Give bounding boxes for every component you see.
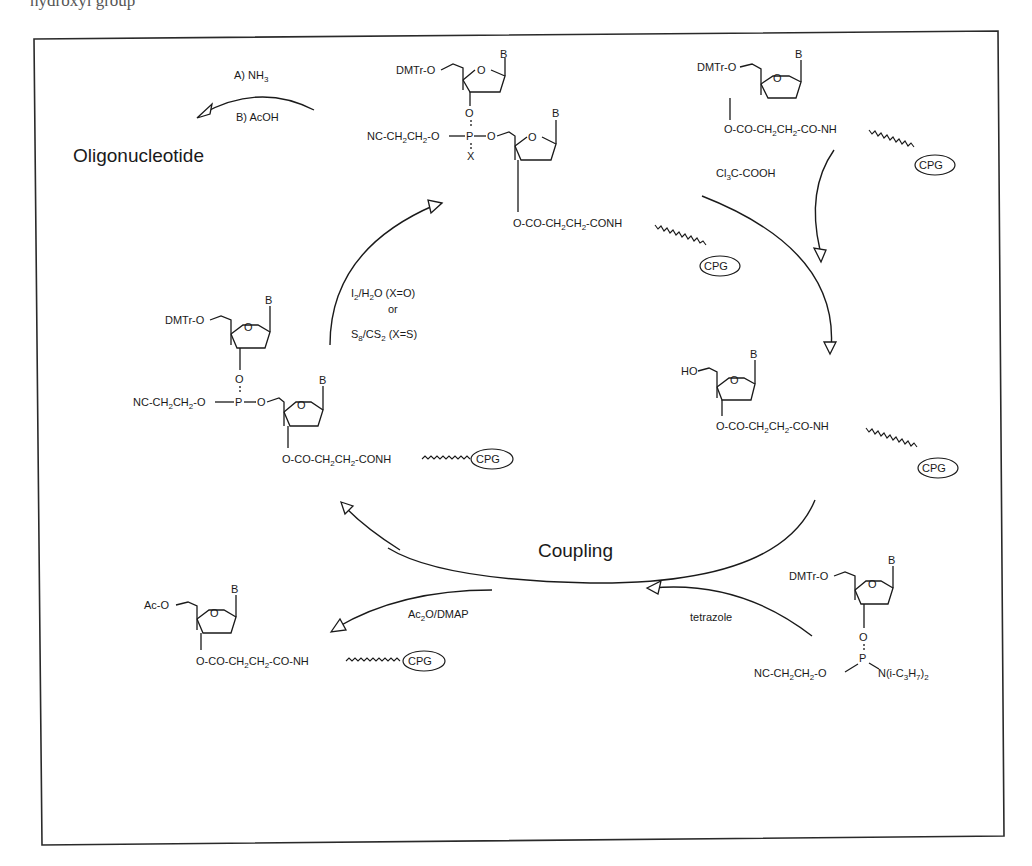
- svg-text:O: O: [773, 72, 782, 84]
- svg-text:O-CO-CH2CH2-CO-NH: O-CO-CH2CH2-CO-NH: [716, 420, 829, 435]
- svg-text:or: or: [388, 303, 398, 315]
- svg-text:CPG: CPG: [408, 655, 432, 667]
- phosphorus: P: [235, 396, 242, 408]
- svg-text:X: X: [467, 150, 475, 162]
- svg-text:O: O: [210, 607, 219, 619]
- synthesis-cycle-figure: hydroxyl group A) NH3 B) AcOH Oligonucle…: [0, 0, 1032, 866]
- deprotection-step: A) NH3 B) AcOH Oligonucleotide: [73, 69, 314, 166]
- activation-step: tetrazole: [647, 581, 812, 636]
- oxidation-arrow: [330, 205, 435, 345]
- coupling-step: Coupling: [388, 500, 815, 583]
- svg-text:O: O: [868, 578, 877, 590]
- diagram-canvas: hydroxyl group A) NH3 B) AcOH Oligonucle…: [0, 0, 1032, 866]
- svg-text:NC-CH2CH2-O: NC-CH2CH2-O: [133, 396, 206, 411]
- detritylation-step: Cl3C-COOH: [716, 150, 834, 262]
- structure-detritylated-nucleoside: HO O B O-CO-CH2CH2-CO-NH CPG: [681, 348, 958, 478]
- svg-text:DMTr-O: DMTr-O: [697, 61, 737, 73]
- phosphorus: P: [859, 652, 866, 664]
- phosphorus: P: [466, 130, 473, 142]
- svg-text:B: B: [265, 294, 272, 306]
- oxidation-step: I2/H2O (X=O) or S8/CS2 (X=S): [330, 200, 442, 345]
- structure-dinucleotide-oxidized: DMTr-O O B O NC-CH2CH2-O P O X O B O-CO-…: [367, 48, 740, 276]
- arrowhead-icon: [428, 200, 442, 213]
- coupling-label: Coupling: [538, 540, 613, 561]
- arrowhead-icon: [331, 619, 346, 632]
- svg-text:B: B: [888, 554, 895, 566]
- svg-text:tetrazole: tetrazole: [690, 611, 732, 623]
- product-oligonucleotide: Oligonucleotide: [73, 145, 204, 166]
- svg-text:Ac2O/DMAP: Ac2O/DMAP: [408, 608, 469, 623]
- svg-text:B: B: [552, 107, 559, 119]
- arrowhead-icon: [197, 104, 212, 118]
- svg-text:O: O: [297, 399, 306, 411]
- svg-text:N(i-C3H7)2: N(i-C3H7)2: [878, 667, 929, 682]
- svg-text:O-CO-CH2CH2-CO-NH: O-CO-CH2CH2-CO-NH: [196, 655, 309, 670]
- svg-text:Cl3C-COOH: Cl3C-COOH: [716, 167, 776, 182]
- svg-text:O: O: [465, 107, 474, 119]
- svg-text:NC-CH2CH2-O: NC-CH2CH2-O: [754, 667, 827, 682]
- reagent-acoh: B) AcOH: [236, 111, 279, 123]
- caption-fragment: hydroxyl group: [30, 0, 135, 10]
- structure-capped-nucleoside: Ac-O O B O-CO-CH2CH2-CO-NH CPG: [144, 583, 445, 671]
- svg-text:O-CO-CH2CH2-CO-NH: O-CO-CH2CH2-CO-NH: [724, 123, 837, 138]
- arrowhead-icon: [814, 248, 826, 262]
- svg-text:DMTr-O: DMTr-O: [165, 314, 205, 326]
- svg-text:CPG: CPG: [922, 462, 946, 474]
- svg-text:A) NH3: A) NH3: [234, 69, 269, 84]
- svg-text:B: B: [795, 48, 802, 60]
- svg-text:O: O: [257, 396, 266, 408]
- detritylation-arrow: [815, 150, 834, 250]
- svg-text:O-CO-CH2CH2-CONH: O-CO-CH2CH2-CONH: [513, 217, 622, 232]
- svg-text:B: B: [319, 374, 326, 386]
- svg-text:O: O: [244, 321, 253, 333]
- arrowhead-icon: [647, 581, 661, 594]
- svg-text:O: O: [487, 130, 496, 142]
- svg-text:CPG: CPG: [476, 453, 500, 465]
- linker-wavy-bond: [655, 225, 706, 245]
- svg-text:O: O: [477, 64, 486, 76]
- svg-text:DMTr-O: DMTr-O: [396, 64, 436, 76]
- svg-text:B: B: [750, 348, 757, 360]
- svg-text:O: O: [730, 374, 739, 386]
- svg-text:O-CO-CH2CH2-CONH: O-CO-CH2CH2-CONH: [282, 453, 391, 468]
- svg-text:O: O: [528, 131, 537, 143]
- svg-text:HO: HO: [681, 365, 698, 377]
- structure-start-nucleoside: DMTr-O O B O-CO-CH2CH2-CO-NH CPG: [697, 48, 955, 175]
- svg-text:I2/H2O (X=O): I2/H2O (X=O): [351, 287, 415, 302]
- svg-text:O: O: [235, 373, 244, 385]
- svg-text:NC-CH2CH2-O: NC-CH2CH2-O: [367, 130, 440, 145]
- svg-text:S8/CS2 (X=S): S8/CS2 (X=S): [351, 328, 417, 343]
- structure-phosphoramidite: DMTr-O O B O P NC-CH2CH2-O N(i-C3H7)2: [754, 554, 929, 682]
- svg-text:O: O: [859, 631, 868, 643]
- svg-text:CPG: CPG: [704, 260, 728, 272]
- svg-text:Ac-O: Ac-O: [144, 599, 170, 611]
- arrowhead-icon: [824, 342, 836, 354]
- reagent-nh3: A) NH: [234, 69, 264, 81]
- svg-text:DMTr-O: DMTr-O: [789, 570, 829, 582]
- svg-text:CPG: CPG: [919, 159, 943, 171]
- svg-text:B: B: [231, 583, 238, 595]
- structure-dinucleotide-phosphite: DMTr-O O B O NC-CH2CH2-O P O O B O-CO-CH…: [133, 294, 513, 469]
- capping-step: Ac2O/DMAP: [331, 590, 492, 632]
- base-label: B: [500, 48, 507, 60]
